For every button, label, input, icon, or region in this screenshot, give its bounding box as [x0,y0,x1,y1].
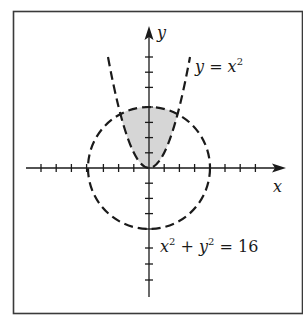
diagram-figure: y x y = x2 x2 + y2 = 16 [0,0,303,323]
parabola-label-exp: 2 [237,56,243,67]
circle-label-x: x [160,237,169,256]
parabola-label-base: y = x [194,57,237,76]
y-axis-label: y [156,23,167,42]
circle-label-plus-y: + y [175,237,209,256]
x-axis-label: x [273,177,282,196]
parabola-equation-label: y = x2 [194,56,243,76]
circle-label-rhs: = 16 [214,237,258,256]
circle-equation-label: x2 + y2 = 16 [160,236,258,256]
